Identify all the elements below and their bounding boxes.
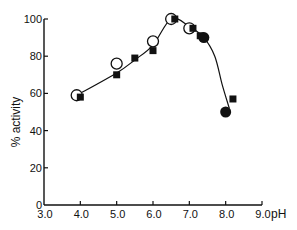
x-tick-label: 4.0 (74, 208, 89, 220)
x-tick-label: 5.0 (110, 208, 125, 220)
square-marker (229, 95, 236, 102)
chart-canvas: 0204060801003.04.05.06.07.08.09.0pH% act… (0, 0, 297, 230)
ph-activity-chart: 0204060801003.04.05.06.07.08.09.0pH% act… (0, 0, 297, 230)
square-marker (150, 47, 157, 54)
square-marker (189, 25, 196, 32)
square-marker (77, 94, 84, 101)
x-tick-label: 9.0 (255, 208, 270, 220)
square-marker (131, 55, 138, 62)
square-marker (113, 71, 120, 78)
y-tick-label: 20 (30, 162, 42, 174)
x-tick-label: 3.0 (37, 208, 52, 220)
open-circle-marker (111, 58, 122, 69)
fit-curve (77, 18, 230, 108)
filled-circle-marker (198, 32, 209, 43)
open-circle-marker (148, 36, 159, 47)
x-tick-label: 6.0 (146, 208, 161, 220)
y-tick-label: 60 (30, 87, 42, 99)
y-tick-label: 100 (24, 13, 42, 25)
square-marker (171, 16, 178, 23)
x-axis-label: pH (271, 207, 286, 221)
x-tick-label: 8.0 (219, 208, 234, 220)
y-tick-label: 40 (30, 125, 42, 137)
y-tick-label: 80 (30, 50, 42, 62)
y-axis-label: % activity (9, 97, 23, 148)
x-tick-label: 7.0 (183, 208, 198, 220)
filled-circle-marker (220, 107, 231, 118)
